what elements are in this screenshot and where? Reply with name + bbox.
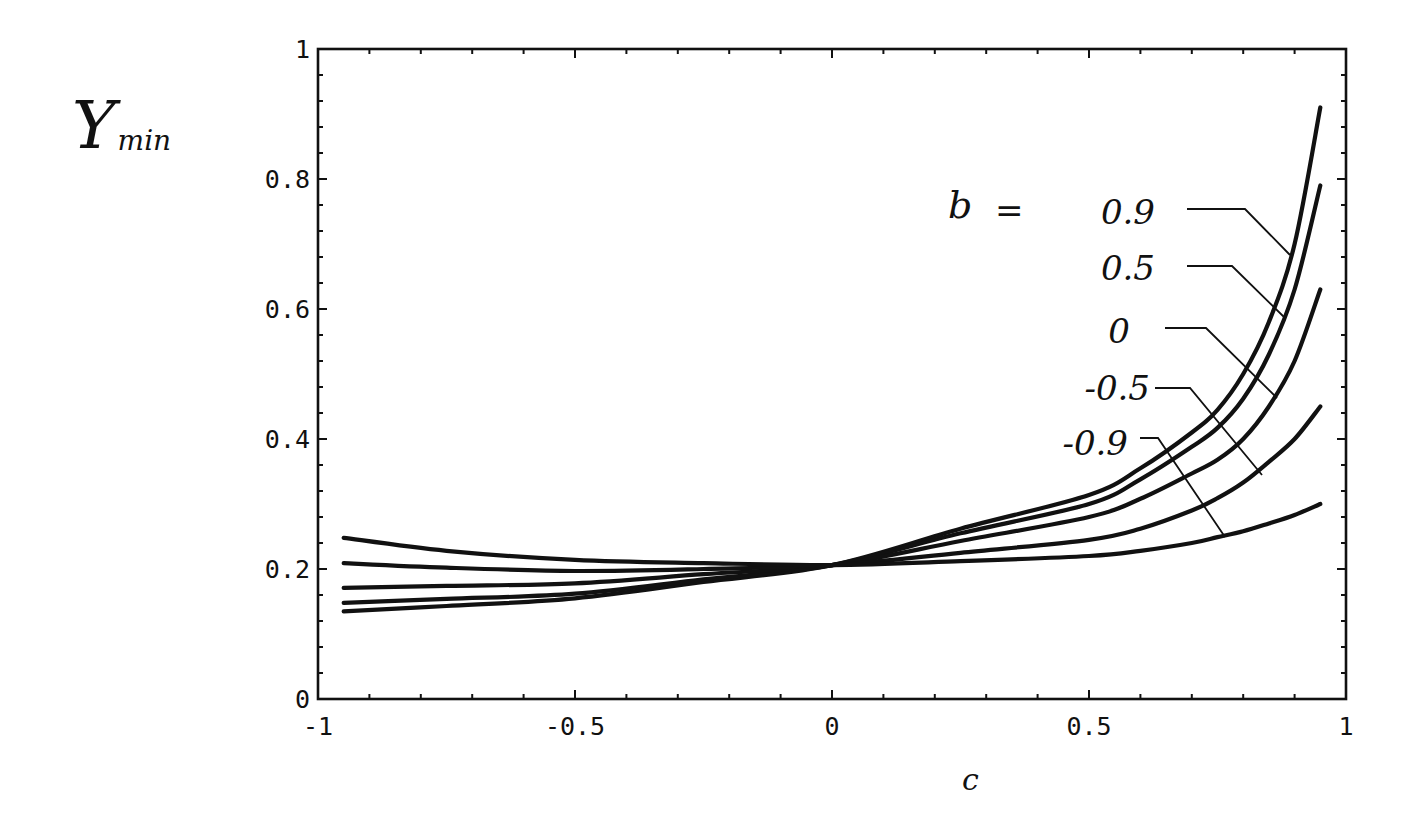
x-axis-title: c (962, 762, 979, 797)
series-line (344, 504, 1321, 565)
leader-line (1187, 209, 1290, 255)
inline-legend: b=0.90.50-0.5-0.9 (948, 183, 1155, 463)
y-tick-label: 1 (295, 35, 310, 64)
x-tick-label: -1 (303, 712, 333, 741)
series-line (344, 186, 1321, 603)
series-line (344, 290, 1321, 588)
legend-title: b (948, 183, 972, 227)
y-axis-title: Ymin (72, 87, 171, 164)
y-tick-label: 0.4 (265, 425, 310, 454)
series-line (344, 108, 1321, 612)
plot-border (318, 49, 1346, 699)
x-tick-label: 0 (824, 712, 839, 741)
y-tick-label: 0.2 (265, 555, 310, 584)
legend-label: 0.9 (1101, 192, 1155, 232)
legend-equals: = (995, 190, 1024, 230)
x-tick-label: -0.5 (545, 712, 605, 741)
legend-label: 0 (1108, 311, 1130, 351)
axis-ticks (318, 49, 1346, 699)
y-tick-label: 0.6 (265, 295, 310, 324)
y-axis-title-sub: min (118, 124, 172, 157)
y-axis-title-main: Y (72, 87, 121, 164)
legend-label: -0.5 (1084, 368, 1150, 408)
leader-line (1187, 266, 1285, 318)
y-tick-label: 0 (295, 685, 310, 714)
legend-label: 0.5 (1101, 248, 1155, 288)
chart: -1-0.500.5100.20.40.60.81 b=0.90.50-0.5-… (0, 0, 1419, 821)
axis-titles: Ymin c (72, 87, 979, 797)
chart-canvas: -1-0.500.5100.20.40.60.81 b=0.90.50-0.5-… (0, 0, 1419, 821)
x-tick-label: 0.5 (1066, 712, 1111, 741)
plot-frame (318, 49, 1346, 699)
data-series (344, 108, 1321, 612)
y-tick-label: 0.8 (265, 165, 310, 194)
legend-label: -0.9 (1062, 423, 1128, 463)
x-tick-label: 1 (1338, 712, 1353, 741)
